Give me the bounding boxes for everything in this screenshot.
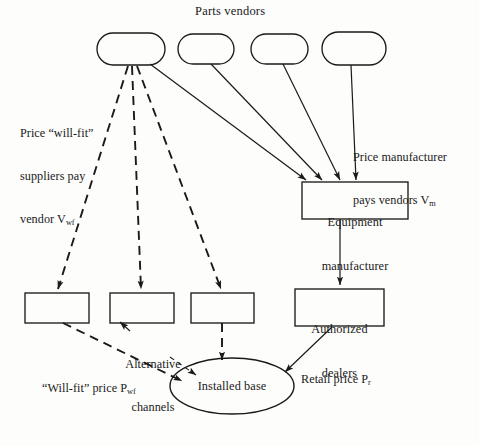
will-fit-bottom-subscript: wf [127,387,136,396]
retail-price-text: Retail price P [301,372,368,386]
retail-price-subscript: r [368,378,371,387]
will-fit-price-line-3-text: vendor V [20,212,66,226]
authorized-dealers-label-line-1: Authorized [295,322,384,337]
vendor-node-2-shape [178,34,234,64]
channel-node-3-shape [191,293,254,323]
diagram-title: Parts vendors [195,4,265,19]
channel-node-1-shape [25,293,89,323]
equipment-manufacturer-label-line-1: Equipment [302,215,408,230]
manufacturer-price-subscript: m [429,199,435,208]
will-fit-price-line-3: vendor Vwf [20,212,94,226]
will-fit-retail-price-annotation: “Will-fit” price Pwf [42,381,136,395]
arrow-vendor1-to-channel3 [137,66,221,289]
will-fit-price-line-1: Price “will-fit” [20,126,94,140]
arrow-vendor3-to-manufacturer [283,64,340,180]
will-fit-price-subscript: wf [66,218,75,227]
equipment-manufacturer-label: Equipment manufacturer [302,186,408,302]
vendor-node-4-shape [322,32,386,65]
authorized-dealers-label: Authorized dealers [295,293,384,409]
channel-node-2-shape [110,293,174,323]
will-fit-bottom-text: “Will-fit” price P [42,381,127,395]
vendor-node-3-shape [251,34,308,64]
alternative-channels-line-1: Alternative [106,357,200,371]
will-fit-supplier-price-annotation: Price “will-fit” suppliers pay vendor Vw… [20,97,94,255]
arrow-vendor1-to-channel2 [132,66,141,289]
alternative-channels-line-2: channels [106,400,200,414]
will-fit-price-line-2: suppliers pay [20,169,94,183]
manufacturer-price-line-1: Price manufacturer [353,150,447,164]
equipment-manufacturer-label-line-2: manufacturer [302,259,408,274]
vendor-node-1-shape [97,33,165,65]
retail-price-annotation: Retail price Pr [301,372,371,386]
diagram-canvas: Parts vendors Price “will-fit” suppliers… [0,0,479,446]
